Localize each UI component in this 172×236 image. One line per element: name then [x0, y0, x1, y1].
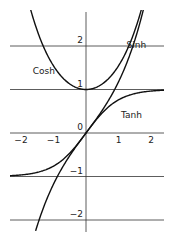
curve-labels: CoshSinhTanh	[33, 40, 147, 120]
y-tick-label: 0	[77, 122, 83, 132]
x-tick-label: −2	[14, 135, 27, 145]
hyperbolic-functions-chart: −2−112−2−1012 CoshSinhTanh	[0, 0, 172, 236]
y-tick-label: 1	[77, 79, 83, 89]
x-tick-label: 1	[116, 135, 122, 145]
y-tick-label: −1	[70, 166, 83, 176]
x-tick-label: −1	[47, 135, 60, 145]
x-tick-label: 2	[148, 135, 154, 145]
sinh-label: Sinh	[127, 40, 147, 50]
y-tick-label: 2	[77, 35, 83, 45]
tanh-label: Tanh	[120, 110, 142, 120]
cosh-label: Cosh	[33, 66, 55, 76]
tick-labels: −2−112−2−1012	[14, 35, 154, 219]
y-tick-label: −2	[70, 209, 83, 219]
